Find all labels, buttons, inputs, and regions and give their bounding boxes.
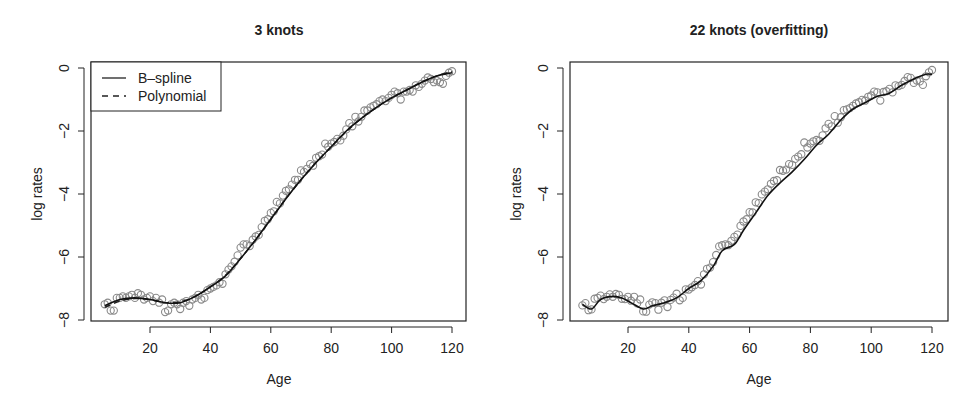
y-axis: 0−2−4−6−8 xyxy=(535,64,563,328)
y-tick-label: −2 xyxy=(56,123,72,139)
x-tick-label: 20 xyxy=(142,340,158,356)
panel-title: 22 knots (overfitting) xyxy=(690,22,828,38)
x-tick-label: 40 xyxy=(203,340,219,356)
x-tick-label: 40 xyxy=(681,340,697,356)
data-point xyxy=(664,303,671,310)
panel-22-knots: 22 knots (overfitting) 20406080100120 0−… xyxy=(508,22,948,387)
x-axis-label: Age xyxy=(267,371,292,387)
x-tick-label: 80 xyxy=(323,340,339,356)
x-tick-label: 100 xyxy=(380,340,404,356)
y-tick-label: 0 xyxy=(56,64,72,72)
data-point xyxy=(655,306,662,313)
y-tick-label: 0 xyxy=(535,64,551,72)
x-tick-label: 120 xyxy=(440,340,464,356)
y-axis-label: log rates xyxy=(508,167,524,221)
y-tick-label: −8 xyxy=(56,312,72,328)
legend-item-bspline: B–spline xyxy=(138,70,192,86)
x-tick-label: 60 xyxy=(742,340,758,356)
data-point xyxy=(877,97,884,104)
panel-3-knots: 3 knots 20406080100120 0−2−4−6−8 Age log… xyxy=(29,22,466,387)
y-tick-label: −4 xyxy=(535,186,551,202)
y-axis: 0−2−4−6−8 xyxy=(56,64,84,328)
y-tick-label: −6 xyxy=(56,249,72,265)
data-point xyxy=(234,252,241,259)
panel-title: 3 knots xyxy=(254,22,303,38)
legend-item-polynomial: Polynomial xyxy=(138,88,206,104)
data-points xyxy=(579,66,936,315)
x-axis-label: Age xyxy=(747,371,772,387)
x-tick-label: 20 xyxy=(620,340,636,356)
y-tick-label: −8 xyxy=(535,312,551,328)
x-tick-label: 120 xyxy=(920,340,944,356)
x-axis: 20406080100120 xyxy=(620,327,944,356)
x-tick-label: 100 xyxy=(860,340,884,356)
x-tick-label: 80 xyxy=(803,340,819,356)
figure: 3 knots 20406080100120 0−2−4−6−8 Age log… xyxy=(0,0,974,411)
bspline-22-knots-fit-line xyxy=(582,74,932,309)
data-point xyxy=(397,96,404,103)
legend: B–spline Polynomial xyxy=(91,62,221,111)
y-tick-label: −6 xyxy=(535,249,551,265)
y-tick-label: −4 xyxy=(56,186,72,202)
x-tick-label: 60 xyxy=(263,340,279,356)
x-axis: 20406080100120 xyxy=(142,327,464,356)
y-axis-label: log rates xyxy=(29,167,45,221)
y-tick-label: −2 xyxy=(535,123,551,139)
